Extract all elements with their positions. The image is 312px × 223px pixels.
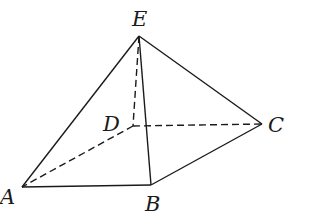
- edge-AB: [22, 185, 151, 187]
- edge-DC-hidden: [133, 124, 262, 126]
- vertex-label-C: C: [268, 113, 284, 137]
- pyramid-diagram: E D C A B: [0, 0, 312, 223]
- edge-EB: [139, 36, 151, 185]
- vertex-label-B: B: [144, 192, 160, 216]
- edge-BC: [151, 124, 262, 185]
- edge-ED-hidden: [133, 36, 139, 126]
- vertex-label-E: E: [131, 7, 147, 31]
- edge-EC: [139, 36, 262, 124]
- edge-EA: [22, 36, 139, 187]
- vertex-label-D: D: [102, 112, 120, 136]
- vertex-label-A: A: [0, 185, 15, 209]
